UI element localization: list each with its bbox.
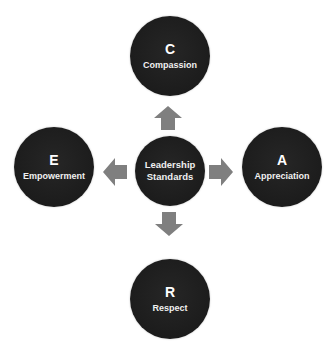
node-leadership-standards: Leadership Standards (135, 136, 205, 206)
arrow-up-icon (154, 106, 182, 130)
node-label: Empowerment (23, 171, 85, 182)
arrow-right-icon (209, 158, 233, 186)
node-letter: E (49, 153, 58, 168)
node-label: Respect (152, 303, 187, 314)
node-empowerment: E Empowerment (14, 127, 94, 207)
arrow-down-icon (155, 212, 183, 236)
node-appreciation: A Appreciation (242, 127, 322, 207)
arrow-left-icon (103, 158, 127, 186)
node-letter: C (165, 42, 175, 57)
node-letter: A (277, 153, 287, 168)
center-label-line1: Leadership (145, 159, 196, 171)
node-label: Compassion (143, 60, 197, 71)
center-label-line2: Standards (147, 171, 193, 183)
node-letter: R (165, 285, 175, 300)
node-label: Appreciation (254, 171, 309, 182)
node-respect: R Respect (130, 259, 210, 339)
node-compassion: C Compassion (130, 16, 210, 96)
